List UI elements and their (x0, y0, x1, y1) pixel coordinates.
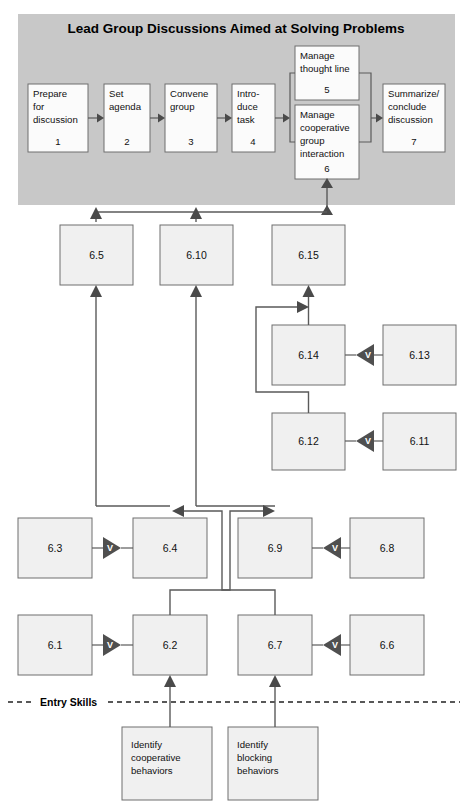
subskill-rail (90, 207, 327, 222)
step-1-line-2: discussion (33, 114, 78, 125)
node-6-7-label: 6.7 (268, 639, 283, 651)
instructional-goal-analysis-diagram: Lead Group Discussions Aimed at Solving … (0, 0, 466, 812)
step-3-line-0: Convene (170, 88, 208, 99)
entry-skills-divider: Entry Skills (8, 696, 460, 708)
connector-entry-blocking-to-6-7 (269, 675, 281, 727)
node-6-6-label: 6.6 (380, 639, 395, 651)
step-7-line-0: Summarize/ (388, 88, 440, 99)
node-6-14-label: 6.14 (298, 349, 319, 361)
connector-6-9-to-6-10 (190, 285, 275, 506)
step-4-line-0: Intro- (237, 88, 259, 99)
step-4-line-2: task (237, 114, 255, 125)
entry-cooperative-line-0: Identify (131, 739, 162, 750)
step-5-line-1: thought line (300, 63, 350, 74)
node-6-3-label: 6.3 (48, 542, 63, 554)
entry-cooperative-line-2: behaviors (131, 765, 173, 776)
entry-box-blocking[interactable] (228, 727, 318, 800)
gate-label: V (332, 640, 338, 650)
node-6-1-label: 6.1 (48, 639, 63, 651)
node-6-8-label: 6.8 (380, 542, 395, 554)
gate-6-13-to-6-14: V (345, 344, 383, 366)
node-6-5-label: 6.5 (89, 249, 104, 261)
gate-6-11-to-6-12: V (345, 430, 383, 452)
step-2-number: 2 (124, 136, 129, 147)
node-6-15-label: 6.15 (298, 249, 319, 261)
gate-6-8-to-6-9: V (312, 537, 350, 559)
step-7-number: 7 (411, 136, 416, 147)
step-3-number: 3 (188, 136, 193, 147)
step-1-line-0: Prepare (33, 88, 67, 99)
step-6-number: 6 (324, 163, 329, 174)
step-5-number: 5 (324, 84, 329, 95)
step-4-line-1: duce (237, 101, 258, 112)
step-7-line-1: conclude (388, 101, 426, 112)
step-6-line-0: Manage (300, 109, 335, 120)
gate-label: V (365, 350, 371, 360)
step-2-line-0: Set (109, 88, 124, 99)
step-1-number: 1 (55, 136, 60, 147)
node-6-13-label: 6.13 (409, 349, 430, 361)
gate-label: V (107, 640, 113, 650)
gate-6-6-to-6-7: V (312, 634, 350, 656)
step-2-line-1: agenda (109, 101, 142, 112)
node-6-11-label: 6.11 (410, 435, 430, 447)
entry-blocking-line-1: blocking (237, 752, 272, 763)
step-6-line-1: cooperative (300, 122, 350, 133)
connector-6-4-to-6-5 (90, 285, 170, 506)
step-4-number: 4 (250, 136, 256, 147)
step-6-line-3: interaction (300, 148, 344, 159)
gate-6-1-to-6-2: V (92, 634, 133, 656)
gate-label: V (332, 543, 338, 553)
diagram-canvas: Lead Group Discussions Aimed at Solving … (0, 0, 466, 812)
entry-cooperative-line-1: cooperative (131, 752, 181, 763)
step-3-line-1: group (170, 101, 195, 112)
entry-blocking-line-0: Identify (237, 739, 268, 750)
node-6-10-label: 6.10 (186, 249, 207, 261)
node-6-2-label: 6.2 (163, 639, 178, 651)
node-6-4-label: 6.4 (163, 542, 178, 554)
node-6-12-label: 6.12 (298, 435, 319, 447)
step-1-line-1: for (33, 101, 45, 112)
page-title: Lead Group Discussions Aimed at Solving … (67, 21, 404, 36)
node-6-9-label: 6.9 (268, 542, 283, 554)
entry-box-cooperative[interactable] (122, 727, 212, 800)
step-7-line-2: discussion (388, 114, 433, 125)
gate-label: V (107, 543, 113, 553)
connector-entry-cooperative-to-6-2 (164, 675, 176, 727)
step-5-line-0: Manage (300, 50, 335, 61)
gate-label: V (365, 436, 371, 446)
entry-blocking-line-2: behaviors (237, 765, 279, 776)
gate-6-3-to-6-4: V (92, 537, 133, 559)
step-6-line-2: group (300, 135, 325, 146)
entry-skills-label: Entry Skills (40, 696, 97, 708)
